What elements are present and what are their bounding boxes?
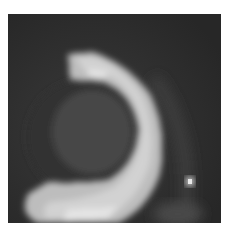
scan-image bbox=[8, 14, 221, 223]
bright-spot-core bbox=[188, 179, 192, 184]
scan-image-graphic bbox=[8, 14, 221, 223]
